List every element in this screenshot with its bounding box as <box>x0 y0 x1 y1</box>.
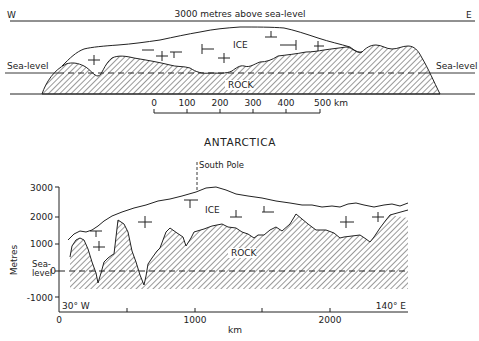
page-title: ANTARCTICA <box>204 136 276 148</box>
scale-tick-200: 200 <box>211 98 228 108</box>
bottom-profile-chart: South Pole ICE ROCK <box>9 160 408 335</box>
y-axis-ticks <box>55 187 59 297</box>
scale-tick-300: 300 <box>244 98 261 108</box>
x-tick-0: 0 <box>56 315 62 325</box>
sea-level-label-left: Sea-level <box>7 61 48 71</box>
west-label: W <box>7 10 16 20</box>
top-scale-bar: 0 100 200 300 400 500 km <box>151 98 348 113</box>
bottom-rock-label: ROCK <box>231 248 258 258</box>
y-tick-minus-1000: -1000 <box>27 293 53 303</box>
top-line-label: 3000 metres above sea-level <box>174 9 305 19</box>
scale-tick-0: 0 <box>151 98 157 108</box>
sea-level-label-line2: level <box>32 268 52 278</box>
bottom-ice-label: ICE <box>205 205 220 215</box>
x-corner-right: 140° E <box>376 301 407 311</box>
top-rock-label: ROCK <box>228 80 255 90</box>
y-tick-2000: 2000 <box>30 212 53 222</box>
x-tick-1000: 1000 <box>184 315 207 325</box>
south-pole-label: South Pole <box>199 160 244 170</box>
top-cross-section: W E 3000 metres above sea-level Sea-leve… <box>5 9 477 113</box>
scale-tick-400: 400 <box>277 98 294 108</box>
sea-level-label-right: Sea-level <box>436 61 477 71</box>
y-axis-label: Metres <box>9 244 19 275</box>
antarctica-cross-section-diagram: W E 3000 metres above sea-level Sea-leve… <box>0 0 479 341</box>
scale-tick-100: 100 <box>178 98 195 108</box>
top-ice-label: ICE <box>233 40 248 50</box>
y-tick-3000: 3000 <box>30 183 53 193</box>
scale-tick-500: 500 km <box>314 98 348 108</box>
x-axis-ticks <box>127 308 330 312</box>
x-tick-2000: 2000 <box>319 315 342 325</box>
east-label: E <box>466 10 472 20</box>
y-tick-1000: 1000 <box>30 239 53 249</box>
x-corner-left: 30° W <box>62 301 90 311</box>
x-axis-label: km <box>228 325 242 335</box>
